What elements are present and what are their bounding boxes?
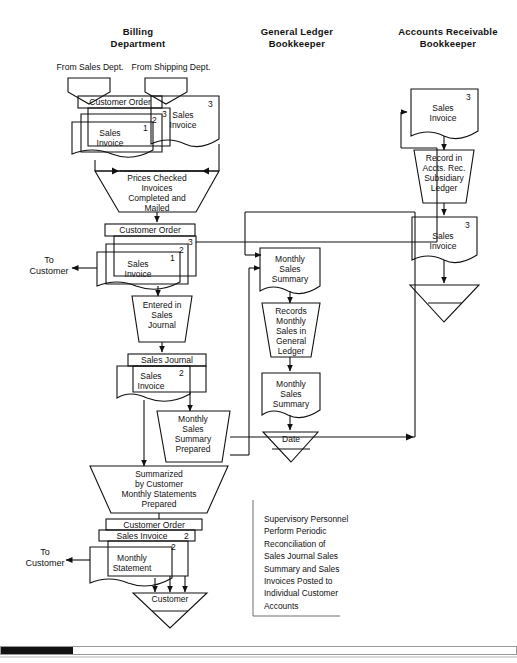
note-line-6: Invoices Posted to [264, 576, 332, 586]
process-text-record-accts-rec: Record in Accts. Rec. Subsidiary Ledger [412, 153, 476, 193]
doc-text-monthly-statement: Monthly Statement [96, 553, 168, 573]
note-line-1: Supervisory Personnel [264, 514, 348, 524]
label-from-sales-dept: From Sales Dept. [50, 62, 130, 72]
doc-label-sales-journal: Sales Journal [128, 355, 206, 365]
column-header-ar-line2: Bookkeeper [420, 38, 476, 49]
copy-number-3-b: 3 [188, 237, 193, 247]
file-label-date: Date [260, 434, 322, 444]
file-label-customer: Customer [139, 594, 201, 604]
doc-label-customer-order-3: Customer Order [106, 520, 202, 530]
doc-text-sales-invoice-3: Sales Invoice [118, 371, 184, 391]
label-from-shipping-dept: From Shipping Dept. [126, 62, 216, 72]
doc-text-sales-invoice-ar-1: Sales Invoice [412, 103, 474, 123]
doc-text-sales-invoice-2: Sales Invoice [103, 259, 173, 279]
supervisory-note: Supervisory Personnel Perform Periodic R… [264, 513, 384, 612]
copy-number-3-ar-1: 3 [466, 92, 471, 102]
copy-number-2-e: 2 [171, 542, 176, 552]
flowchart-canvas: Billing Department General Ledger Bookke… [0, 0, 517, 663]
note-line-3: Reconciliation of [264, 539, 325, 549]
doc-text-sales-invoice-shipping: Sales Invoice [152, 110, 214, 130]
scan-edge-shadow [0, 656, 517, 658]
label-to-customer-statement: To Customer [14, 547, 76, 569]
doc-text-monthly-sales-summary-2: Monthly Sales Summary [259, 379, 323, 409]
doc-label-sales-invoice-4: Sales Invoice [99, 531, 185, 541]
copy-number-2-d: 2 [184, 531, 189, 541]
column-header-ar-line1: Accounts Receivable [398, 26, 497, 37]
note-line-7: Individual Customer [264, 588, 338, 598]
doc-label-customer-order-2: Customer Order [105, 225, 195, 235]
doc-text-monthly-sales-summary-1: Monthly Sales Summary [258, 254, 322, 284]
doc-text-sales-invoice-ar-2: Sales Invoice [412, 231, 474, 251]
process-text-records-monthly-sales: Records Monthly Sales in General Ledger [259, 306, 323, 356]
copy-number-2-b: 2 [179, 245, 184, 255]
copy-number-3-ar-2: 3 [465, 220, 470, 230]
process-text-summarized-by-customer: Summarized by Customer Monthly Statement… [92, 469, 226, 509]
column-header-gl-line2: Bookkeeper [269, 38, 325, 49]
process-text-monthly-summary-prepared: Monthly Sales Summary Prepared [160, 414, 226, 454]
column-header-accounts-receivable: Accounts Receivable Bookkeeper [379, 26, 517, 50]
note-line-2: Perform Periodic [264, 526, 326, 536]
note-line-5: Summary and Sales [264, 564, 339, 574]
note-line-4: Sales Journal Sales [264, 551, 338, 561]
column-header-billing: Billing Department [78, 26, 198, 50]
note-line-8: Accounts [264, 601, 298, 611]
column-header-gl-line1: General Ledger [261, 26, 334, 37]
label-to-customer-invoice: To Customer [18, 255, 80, 277]
column-header-billing-line2: Department [111, 38, 166, 49]
column-header-billing-line1: Billing [123, 26, 153, 37]
doc-label-customer-order-1: Customer Order [78, 97, 162, 107]
process-text-prices-checked: Prices Checked Invoices Completed and Ma… [104, 173, 210, 213]
column-header-general-ledger: General Ledger Bookkeeper [232, 26, 362, 50]
doc-text-sales-invoice-1: Sales Invoice [75, 128, 145, 148]
process-text-entered-sales-journal: Entered in Sales Journal [130, 300, 194, 330]
scan-edge-bar [0, 646, 517, 655]
copy-number-3-shipping: 3 [208, 99, 213, 109]
